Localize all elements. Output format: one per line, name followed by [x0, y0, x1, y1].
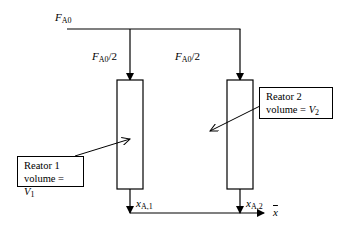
- feed-subscript: A0: [62, 16, 72, 25]
- split-right-suffix: /2: [192, 50, 201, 62]
- split-left-suffix: /2: [109, 50, 118, 62]
- reactor2-volume: volume = V2: [266, 103, 326, 119]
- reactor1-volume-prefix: volume =: [24, 173, 64, 184]
- reactor2-name: Reator 2: [266, 90, 326, 103]
- reactor1-volume: volume = V1: [24, 172, 77, 201]
- split-left-label: FA0/2: [92, 50, 117, 66]
- split-right-subscript: A0: [182, 55, 192, 64]
- flow-diagram: [0, 0, 354, 246]
- outlet1-subscript: A,1: [141, 202, 153, 211]
- feed-symbol: F: [55, 11, 62, 23]
- reactor2-volume-subscript: 2: [315, 108, 319, 117]
- outlet2-label: xA,2: [246, 197, 263, 213]
- split-right-label: FA0/2: [175, 50, 200, 66]
- reactor1-name: Reator 1: [24, 159, 77, 172]
- reactor1-vessel: [117, 80, 143, 189]
- mixed-outlet-symbol: x: [273, 206, 278, 218]
- outlet1-label: xA,1: [136, 197, 153, 213]
- feed-label: FA0: [55, 11, 72, 27]
- split-left-symbol: F: [92, 50, 99, 62]
- reactor1-label-box: Reator 1 volume = V1: [17, 156, 84, 187]
- split-left-subscript: A0: [99, 55, 109, 64]
- reactor2-vessel: [227, 80, 253, 189]
- split-right-symbol: F: [175, 50, 182, 62]
- outlet2-subscript: A,2: [251, 202, 263, 211]
- reactor1-volume-subscript: 1: [30, 190, 34, 199]
- reactor2-label-box: Reator 2 volume = V2: [259, 87, 333, 119]
- mixed-outlet-label: x: [273, 206, 278, 218]
- reactor2-volume-prefix: volume =: [266, 104, 309, 115]
